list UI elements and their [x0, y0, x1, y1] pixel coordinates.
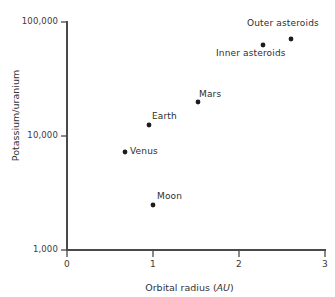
- point-label-outer-asteroids: Outer asteroids: [247, 18, 319, 28]
- x-axis-title-main: Orbital radius (: [145, 282, 216, 293]
- x-tick-label-1: 1: [143, 259, 163, 269]
- x-axis-title-wrapper: Orbital radius (AU): [67, 276, 312, 295]
- x-axis-title-unit: AU: [217, 282, 230, 293]
- data-point-venus: [123, 150, 128, 155]
- y-axis-title: Potassium/uranium: [10, 70, 21, 161]
- data-point-inner-asteroids: [261, 43, 266, 48]
- x-tick-label-0: 0: [57, 259, 77, 269]
- point-label-moon: Moon: [157, 191, 182, 201]
- point-label-mars: Mars: [199, 89, 221, 99]
- y-axis-title-wrapper: Potassium/uranium: [4, 57, 23, 175]
- y-tick-label-100000: 100,000: [6, 16, 58, 26]
- point-label-inner-asteroids: Inner asteroids: [216, 48, 286, 58]
- data-point-earth: [147, 123, 152, 128]
- scatter-chart: 100,000 10,000 1,000 0 1 2 3 Venus Moon …: [0, 0, 335, 297]
- x-axis-title-close: ): [230, 282, 234, 293]
- x-tick-label-2: 2: [229, 259, 249, 269]
- point-label-venus: Venus: [130, 146, 158, 156]
- data-point-moon: [151, 203, 156, 208]
- data-point-outer-asteroids: [289, 37, 294, 42]
- y-tick-label-1000: 1,000: [6, 244, 58, 254]
- data-point-mars: [196, 100, 201, 105]
- x-tick-label-3: 3: [315, 259, 335, 269]
- point-label-earth: Earth: [152, 111, 177, 121]
